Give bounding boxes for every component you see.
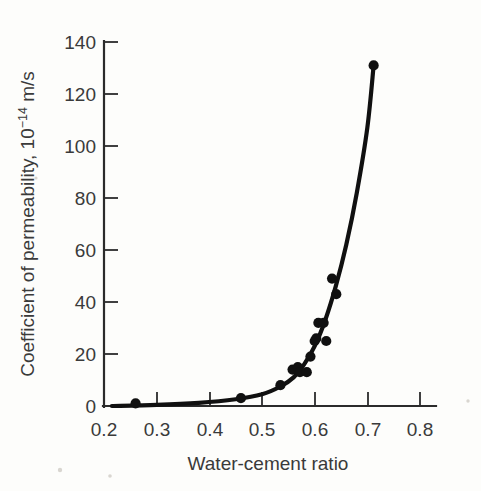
data-point	[311, 333, 321, 343]
y-tick-label-60: 60	[75, 240, 96, 261]
y-tick-label-80: 80	[75, 188, 96, 209]
x-tick-label-0-6: 0.6	[302, 419, 328, 440]
data-point	[331, 289, 341, 299]
y-tick-label-20: 20	[75, 344, 96, 365]
y-axis-title: Coefficient of permeability, 10−14 m/s	[16, 71, 38, 377]
data-point	[369, 60, 379, 70]
data-point-group	[131, 60, 379, 408]
y-tick-label-40: 40	[75, 292, 96, 313]
fitted-trend-curve	[112, 65, 374, 406]
x-tick-label-0-2: 0.2	[91, 419, 117, 440]
y-axis-title-exponent: −14	[16, 107, 30, 128]
x-tick-label-0-4: 0.4	[197, 419, 224, 440]
x-axis-title: Water-cement ratio	[188, 453, 349, 474]
data-point	[236, 393, 246, 403]
x-tick-label-0-7: 0.7	[355, 419, 381, 440]
x-tick-label-0-3: 0.3	[144, 419, 170, 440]
permeability-chart-figure: 140 120 100 80 60 40 20 0 0.2 0.3 0.4 0.…	[0, 0, 481, 491]
data-point	[275, 380, 285, 390]
y-axis-title-tail: m/s	[17, 71, 38, 107]
data-point	[302, 367, 312, 377]
svg-text:Coefficient of permeability, 1: Coefficient of permeability, 10−14 m/s	[16, 71, 38, 377]
chart-canvas: 140 120 100 80 60 40 20 0 0.2 0.3 0.4 0.…	[0, 0, 481, 491]
x-tick-label-0-8: 0.8	[407, 419, 433, 440]
data-point	[319, 318, 329, 328]
data-point	[327, 274, 337, 284]
x-tick-label-0-5: 0.5	[249, 419, 275, 440]
data-point	[321, 336, 331, 346]
data-point	[305, 352, 315, 362]
y-tick-label-100: 100	[64, 136, 96, 157]
y-tick-label-0: 0	[85, 396, 96, 417]
y-axis-title-main: Coefficient of permeability, 10	[17, 128, 38, 377]
data-point	[131, 398, 141, 408]
y-tick-label-120: 120	[64, 84, 96, 105]
y-axis-ticks	[104, 42, 118, 354]
y-tick-label-140: 140	[64, 32, 96, 53]
